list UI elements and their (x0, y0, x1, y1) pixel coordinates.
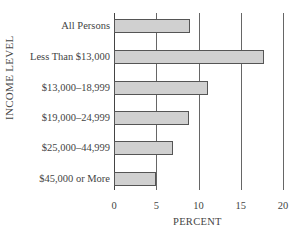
category-label: $25,000–44,999 (42, 142, 110, 153)
y-axis-label: INCOME LEVEL (3, 35, 15, 120)
y-axis-line (114, 13, 115, 190)
x-tick-label: 15 (236, 200, 247, 211)
bar (114, 111, 189, 125)
category-label: Less Than $13,000 (30, 51, 110, 62)
bar (114, 141, 173, 155)
category-label: $19,000–24,999 (42, 112, 110, 123)
x-tick-label: 5 (154, 200, 159, 211)
gridline (241, 13, 242, 190)
x-tick-label: 0 (111, 200, 116, 211)
x-axis-label: PERCENT (173, 216, 222, 227)
bar (114, 172, 156, 186)
bar (114, 50, 264, 64)
category-label: All Persons (61, 20, 110, 31)
category-label: $13,000–18,999 (42, 82, 110, 93)
category-label: $45,000 or More (39, 173, 110, 184)
gridline (283, 13, 284, 190)
bar (114, 19, 190, 33)
gridline (199, 13, 200, 190)
plot-area (114, 13, 284, 206)
x-tick-label: 10 (193, 200, 204, 211)
bar (114, 81, 208, 95)
x-tick-label: 20 (278, 200, 289, 211)
gridline (156, 13, 157, 190)
